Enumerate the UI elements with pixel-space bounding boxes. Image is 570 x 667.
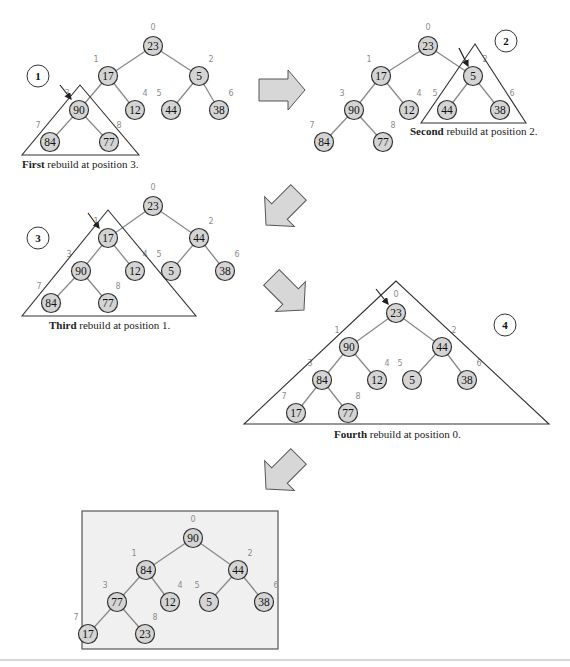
node-value: 77 bbox=[377, 136, 389, 148]
heap-node: 38 bbox=[255, 593, 274, 612]
index-label: 5 bbox=[156, 250, 161, 259]
step-number-badge: 3 bbox=[27, 227, 49, 249]
step-number-text: 1 bbox=[35, 70, 41, 82]
index-label: 5 bbox=[397, 359, 402, 368]
heap-node: 84 bbox=[313, 371, 332, 390]
heap-node: 77 bbox=[108, 593, 127, 612]
node-value: 12 bbox=[129, 265, 141, 277]
node-value: 5 bbox=[409, 374, 415, 386]
index-label: 0 bbox=[425, 23, 430, 32]
index-label: 7 bbox=[35, 121, 40, 130]
node-value: 17 bbox=[82, 628, 94, 640]
node-value: 90 bbox=[343, 341, 355, 353]
node-value: 23 bbox=[390, 307, 402, 319]
caption-step-1: First rebuild at position 3. bbox=[22, 158, 139, 170]
heap-node: 12 bbox=[161, 593, 180, 612]
node-value: 44 bbox=[232, 564, 244, 576]
index-label: 6 bbox=[273, 581, 278, 590]
heap-node: 44 bbox=[190, 229, 209, 248]
node-value: 90 bbox=[187, 532, 199, 544]
node-value: 77 bbox=[103, 136, 115, 148]
heap-node: 23 bbox=[144, 197, 163, 216]
index-label: 4 bbox=[384, 359, 389, 368]
step-number-badge: 4 bbox=[494, 314, 516, 336]
node-value: 17 bbox=[102, 70, 114, 82]
index-label: 1 bbox=[366, 55, 371, 64]
heap-node: 17 bbox=[287, 404, 306, 423]
heap-node: 77 bbox=[374, 133, 393, 152]
heap-node: 17 bbox=[99, 229, 118, 248]
heap-node: 5 bbox=[403, 371, 422, 390]
heap-node: 17 bbox=[372, 67, 391, 86]
step-number-text: 4 bbox=[502, 319, 508, 331]
index-label: 4 bbox=[177, 581, 182, 590]
node-value: 38 bbox=[494, 104, 506, 116]
index-label: 6 bbox=[234, 250, 239, 259]
heap-node: 84 bbox=[315, 133, 334, 152]
node-value: 38 bbox=[258, 596, 270, 608]
down-left-arrow-icon bbox=[251, 442, 313, 504]
index-label: 7 bbox=[73, 613, 78, 622]
node-value: 5 bbox=[196, 70, 202, 82]
heap-node: 17 bbox=[99, 67, 118, 86]
heap-node: 84 bbox=[42, 294, 61, 313]
node-value: 23 bbox=[422, 40, 434, 52]
heap-node: 77 bbox=[339, 404, 358, 423]
node-value: 12 bbox=[403, 104, 415, 116]
step-number-text: 2 bbox=[503, 35, 509, 47]
node-value: 17 bbox=[375, 70, 387, 82]
node-value: 5 bbox=[168, 265, 174, 277]
heap-node: 44 bbox=[433, 338, 452, 357]
index-label: 1 bbox=[131, 549, 136, 558]
down-right-arrow-icon bbox=[257, 263, 319, 325]
node-value: 12 bbox=[371, 374, 383, 386]
heap-node: 38 bbox=[458, 371, 477, 390]
node-value: 12 bbox=[129, 104, 141, 116]
index-label: 0 bbox=[393, 290, 398, 299]
heap-node: 38 bbox=[491, 101, 510, 120]
step-number-badge: 2 bbox=[495, 30, 517, 52]
index-label: 2 bbox=[247, 549, 252, 558]
node-value: 17 bbox=[102, 232, 114, 244]
heap-node: 12 bbox=[126, 262, 145, 281]
index-label: 2 bbox=[208, 217, 213, 226]
heap-node: 23 bbox=[144, 37, 163, 56]
node-value: 90 bbox=[348, 104, 360, 116]
heap-node: 90 bbox=[184, 529, 203, 548]
final-heap-box bbox=[82, 511, 278, 649]
node-value: 77 bbox=[102, 297, 114, 309]
node-value: 77 bbox=[111, 596, 123, 608]
heap-node: 90 bbox=[345, 101, 364, 120]
heap-node: 90 bbox=[70, 101, 89, 120]
heap-node: 23 bbox=[419, 37, 438, 56]
index-label: 7 bbox=[36, 282, 41, 291]
heap-node: 5 bbox=[190, 67, 209, 86]
frame-step-3: 02311724439041255638784877 bbox=[36, 183, 239, 313]
index-label: 8 bbox=[390, 121, 395, 130]
node-value: 44 bbox=[165, 104, 177, 116]
node-value: 23 bbox=[147, 40, 159, 52]
heap-node: 77 bbox=[99, 294, 118, 313]
caption-step-2: Second rebuild at position 2. bbox=[410, 125, 538, 137]
caption-step-3: Third rebuild at position 1. bbox=[49, 319, 171, 331]
index-label: 5 bbox=[156, 89, 161, 98]
heap-node: 44 bbox=[229, 561, 248, 580]
heap-node: 38 bbox=[216, 262, 235, 281]
heap-node: 44 bbox=[162, 101, 181, 120]
node-value: 17 bbox=[290, 407, 302, 419]
node-value: 12 bbox=[164, 596, 176, 608]
frame-step-4: 02319024438441255638717877 bbox=[281, 290, 481, 423]
index-label: 5 bbox=[194, 581, 199, 590]
index-label: 8 bbox=[115, 282, 120, 291]
subtree-triangle-step-1 bbox=[22, 85, 139, 155]
node-value: 23 bbox=[147, 200, 159, 212]
caption-step-4: Fourth rebuild at position 0. bbox=[334, 428, 461, 440]
node-value: 44 bbox=[436, 341, 448, 353]
heap-node: 44 bbox=[438, 101, 457, 120]
heap-node: 23 bbox=[387, 304, 406, 323]
node-value: 5 bbox=[470, 70, 476, 82]
heap-node: 38 bbox=[210, 101, 229, 120]
index-label: 0 bbox=[150, 183, 155, 192]
index-label: 1 bbox=[93, 55, 98, 64]
heap-node: 17 bbox=[79, 625, 98, 644]
